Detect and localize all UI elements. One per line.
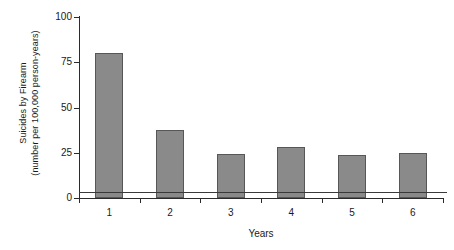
y-axis-tick bbox=[74, 153, 79, 154]
x-axis-tick bbox=[140, 198, 141, 203]
x-axis-tick bbox=[261, 198, 262, 203]
y-axis-tick-label: 50 bbox=[61, 103, 72, 113]
x-axis-tick-label: 6 bbox=[410, 207, 416, 218]
x-axis-tick-label: 2 bbox=[167, 207, 173, 218]
bar bbox=[277, 147, 305, 198]
bar-chart-figure: Suicides by Firearm (number per 100,000 … bbox=[0, 0, 454, 250]
x-axis-tick-label: 1 bbox=[107, 207, 113, 218]
x-axis-tick bbox=[382, 198, 383, 203]
x-axis-tick bbox=[200, 198, 201, 203]
y-axis-tick bbox=[74, 62, 79, 63]
y-axis-tick bbox=[74, 17, 79, 18]
bar bbox=[95, 53, 123, 198]
x-axis-tick bbox=[79, 198, 80, 203]
y-axis-title: Suicides by Firearm (number per 100,000 … bbox=[8, 0, 50, 205]
x-axis-tick bbox=[322, 198, 323, 203]
x-axis-tick-label: 4 bbox=[289, 207, 295, 218]
y-axis-tick-label: 0 bbox=[66, 193, 72, 203]
reference-line-annotation bbox=[79, 192, 447, 193]
y-axis-title-line-1: Suicides by Firearm bbox=[17, 30, 29, 175]
y-axis-tick bbox=[74, 108, 79, 109]
y-axis-tick-label: 75 bbox=[61, 57, 72, 67]
bar bbox=[156, 130, 184, 198]
x-axis-tick-label: 3 bbox=[228, 207, 234, 218]
y-axis-tick-label: 25 bbox=[61, 148, 72, 158]
x-axis-tick bbox=[443, 198, 444, 203]
x-axis-tick-label: 5 bbox=[349, 207, 355, 218]
plot-area: 0255075100123456 bbox=[79, 17, 443, 198]
y-axis-title-line-2: (number per 100,000 person-years) bbox=[29, 30, 41, 175]
x-axis-title: Years bbox=[79, 228, 443, 240]
y-axis-tick-label: 100 bbox=[55, 12, 72, 22]
